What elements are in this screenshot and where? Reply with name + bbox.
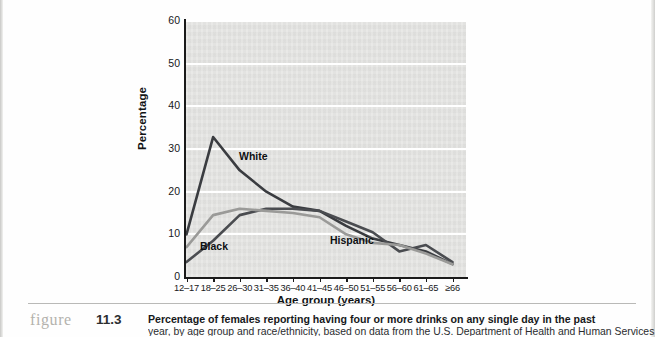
plot-area — [186, 21, 466, 277]
y-axis-title-wrapper: Percentage — [142, 0, 156, 300]
x-tick-label-5: 41–45 — [307, 283, 332, 293]
x-tick-label-3: 31–35 — [254, 283, 279, 293]
caption-figure-word: figure — [30, 311, 72, 329]
x-tick-0 — [187, 277, 189, 282]
caption-figure-number: 11.3 — [96, 312, 122, 327]
y-axis-title: Percentage — [136, 87, 148, 150]
x-tick-8 — [399, 277, 401, 282]
figure-caption: figure 11.3 Percentage of females report… — [30, 309, 642, 337]
x-tick-label-2: 26–30 — [227, 283, 252, 293]
x-tick-3 — [266, 277, 268, 282]
series-label-hispanic: Hispanic — [330, 234, 374, 246]
scanned-page: 0102030405060 12–1718–2526–3031–3536–404… — [0, 0, 655, 337]
series-label-black: Black — [200, 240, 228, 252]
x-tick-7 — [373, 277, 375, 282]
caption-divider — [28, 303, 636, 304]
series-label-white: White — [239, 150, 268, 162]
series-lines — [186, 21, 466, 277]
x-tick-6 — [346, 277, 348, 282]
figure-chart: 0102030405060 12–1718–2526–3031–3536–404… — [0, 0, 655, 300]
y-axis-line — [184, 19, 186, 279]
x-tick-9 — [426, 277, 428, 282]
x-tick-label-7: 51–55 — [360, 283, 385, 293]
x-tick-10 — [453, 277, 455, 282]
x-tick-label-6: 46–50 — [334, 283, 359, 293]
x-tick-label-4: 36–40 — [280, 283, 305, 293]
x-tick-1 — [213, 277, 215, 282]
caption-text-line-1: Percentage of females reporting having f… — [148, 313, 640, 326]
x-tick-label-8: 56–60 — [387, 283, 412, 293]
x-tick-2 — [240, 277, 242, 282]
x-axis-title: Age group (years) — [186, 294, 466, 306]
x-tick-label-1: 18–25 — [201, 283, 226, 293]
x-tick-4 — [293, 277, 295, 282]
x-tick-label-9: 61–65 — [413, 283, 438, 293]
x-tick-label-0: 12–17 — [174, 283, 199, 293]
caption-text-line-2: year, by age group and race/ethnicity, b… — [148, 326, 655, 336]
series-line-hispanic — [187, 209, 453, 264]
x-tick-5 — [320, 277, 322, 282]
x-tick-label-10: ≥66 — [445, 283, 460, 293]
